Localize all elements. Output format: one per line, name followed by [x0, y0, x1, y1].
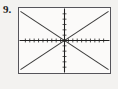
origin-point	[63, 39, 66, 42]
figure-caption	[16, 81, 104, 86]
problem-number-label: 9.	[3, 3, 11, 15]
graph-frame	[18, 7, 111, 74]
figure-container: 9.	[0, 0, 118, 89]
coordinate-plane-svg	[19, 8, 110, 73]
